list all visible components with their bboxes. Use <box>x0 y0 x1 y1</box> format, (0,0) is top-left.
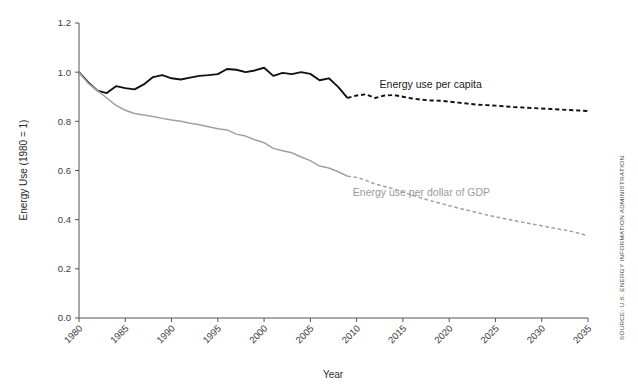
y-axis-ticks: 0.00.20.40.60.81.01.2 <box>58 17 79 323</box>
source-attribution: SOURCE: U.S. ENERGY INFORMATION ADMINIST… <box>618 154 625 340</box>
energy-use-per-capita-history-line <box>79 68 347 98</box>
chart-canvas: 0.00.20.40.60.81.01.2 198019851990199520… <box>0 0 638 391</box>
x-tick-label: 1980 <box>62 323 85 346</box>
x-tick-label: 2020 <box>432 323 455 346</box>
x-tick-label: 2035 <box>571 323 594 346</box>
x-tick-label: 2030 <box>524 323 547 346</box>
energy-use-line-chart: 0.00.20.40.60.81.01.2 198019851990199520… <box>0 0 638 391</box>
y-tick-label: 1.0 <box>58 67 71 78</box>
y-tick-label: 0.0 <box>58 312 71 323</box>
y-tick-label: 1.2 <box>58 17 71 28</box>
data-series <box>79 68 588 236</box>
x-tick-label: 1995 <box>201 323 224 346</box>
y-tick-label: 0.2 <box>58 263 71 274</box>
y-axis-title: Energy Use (1980 = 1) <box>18 120 29 221</box>
energy-use-per-capita-label: Energy use per capita <box>380 78 482 90</box>
x-tick-label: 2005 <box>293 323 316 346</box>
x-axis-ticks: 1980198519901995200020052010201520202025… <box>62 318 594 345</box>
energy-use-per-dollar-gdp-projection-line <box>347 176 588 236</box>
energy-use-per-dollar-gdp-label: Energy use per dollar of GDP <box>353 186 490 198</box>
series-annotations: Energy use per capitaEnergy use per doll… <box>353 78 490 198</box>
x-axis-title: Year <box>323 369 344 380</box>
y-tick-label: 0.8 <box>58 116 71 127</box>
x-tick-label: 1985 <box>108 323 131 346</box>
y-tick-label: 0.6 <box>58 165 71 176</box>
energy-use-per-capita-projection-line <box>347 94 588 111</box>
y-tick-label: 0.4 <box>58 214 71 225</box>
x-tick-label: 1990 <box>154 323 177 346</box>
x-tick-label: 2025 <box>478 323 501 346</box>
x-tick-label: 2010 <box>339 323 362 346</box>
x-tick-label: 2000 <box>247 323 270 346</box>
x-tick-label: 2015 <box>386 323 409 346</box>
